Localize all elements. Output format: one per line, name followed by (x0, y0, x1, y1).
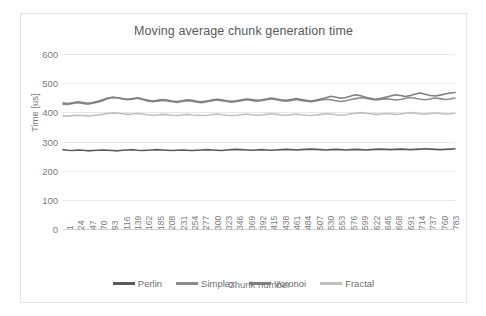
legend-swatch-voronoi (249, 282, 271, 285)
x-axis-tick-label: 737 (428, 216, 438, 230)
legend-label: Fractal (345, 278, 374, 289)
x-axis-tick-label: 346 (235, 216, 245, 230)
x-axis-tick-label: 139 (133, 216, 143, 230)
legend-swatch-simplex (176, 282, 198, 285)
x-axis-tick-label: 484 (303, 216, 313, 230)
legend-item-perlin[interactable]: Perlin (113, 278, 162, 289)
x-axis-tick-label: 553 (337, 216, 347, 230)
x-axis-tick-label: 438 (281, 216, 291, 230)
x-axis-tick-label: 691 (406, 216, 416, 230)
x-axis-tick-label: 1 (65, 225, 75, 230)
x-axis-tick-label: 392 (258, 216, 268, 230)
chart-title: Moving average chunk generation time (21, 24, 466, 38)
x-axis-tick-label: 185 (156, 216, 166, 230)
series-lines (63, 54, 455, 229)
legend-item-voronoi[interactable]: Voronoi (249, 278, 306, 289)
x-axis-tick-label: 783 (451, 216, 461, 230)
y-axis-tick-label: 400 (42, 107, 58, 118)
x-axis-tick-label: 507 (315, 216, 325, 230)
y-axis-tick-label: 200 (42, 165, 58, 176)
x-axis-tick-label: 254 (190, 216, 200, 230)
x-axis-tick-label: 714 (417, 216, 427, 230)
y-axis-tick-label: 300 (42, 136, 58, 147)
legend-swatch-perlin (113, 282, 135, 285)
x-axis-tick-label: 461 (292, 216, 302, 230)
legend-item-fractal[interactable]: Fractal (320, 278, 374, 289)
x-axis-tick-label: 668 (394, 216, 404, 230)
x-axis-tick-label: 47 (88, 221, 98, 230)
x-axis-tick-label: 530 (326, 216, 336, 230)
y-axis-title: Time [us] (29, 93, 40, 132)
legend-item-simplex[interactable]: Simplex (176, 278, 235, 289)
x-axis-tick-label: 645 (383, 216, 393, 230)
x-axis-tick-label: 93 (110, 221, 120, 230)
series-line-fractal (63, 113, 455, 117)
x-axis-tick-label: 24 (76, 221, 86, 230)
legend-label: Simplex (201, 278, 235, 289)
x-axis-tick-label: 162 (144, 216, 154, 230)
legend-label: Perlin (138, 278, 162, 289)
legend-swatch-fractal (320, 282, 342, 285)
series-line-voronoi (63, 93, 455, 104)
chart-container: Moving average chunk generation time Tim… (20, 13, 467, 303)
x-axis-tick-label: 116 (122, 216, 132, 230)
legend-label: Voronoi (274, 278, 306, 289)
x-axis-tick-label: 277 (201, 216, 211, 230)
x-axis-tick-label: 300 (213, 216, 223, 230)
x-axis-tick-label: 70 (99, 221, 109, 230)
x-axis-tick-label: 622 (372, 216, 382, 230)
y-axis-tick-label: 0 (53, 224, 58, 235)
series-line-perlin (63, 149, 455, 151)
x-axis-tick-label: 576 (349, 216, 359, 230)
chart-legend: PerlinSimplexVoronoiFractal (21, 278, 466, 289)
x-axis-tick-label: 231 (179, 216, 189, 230)
plot-area: 0100200300400500600 (63, 54, 455, 229)
x-axis-tick-label: 415 (269, 216, 279, 230)
y-axis-tick-label: 600 (42, 49, 58, 60)
x-axis-tick-labels: 1244770931161391621852082312542773003233… (63, 230, 455, 276)
x-axis-tick-label: 760 (440, 216, 450, 230)
x-axis-tick-label: 369 (247, 216, 257, 230)
x-axis-tick-label: 323 (224, 216, 234, 230)
y-axis-tick-label: 500 (42, 78, 58, 89)
y-axis-tick-label: 100 (42, 194, 58, 205)
x-axis-tick-label: 208 (167, 216, 177, 230)
x-axis-tick-label: 599 (360, 216, 370, 230)
